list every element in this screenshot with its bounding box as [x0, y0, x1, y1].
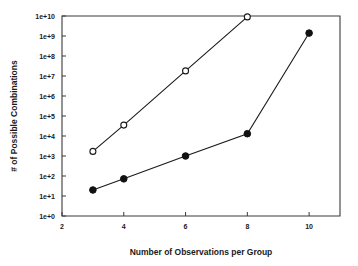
y-tick-label: 1e+7	[39, 73, 55, 80]
y-tick-label: 1e+6	[39, 93, 55, 100]
x-tick-label: 4	[122, 223, 126, 230]
x-axis-tick-marks	[62, 212, 309, 216]
series-line-open-circle-series	[93, 17, 247, 151]
x-tick-label: 6	[184, 223, 188, 230]
y-axis-title: # of Possible Combinations	[9, 60, 19, 172]
data-point-filled-circle-series	[90, 187, 97, 194]
x-tick-label: 2	[60, 223, 64, 230]
chart-figure: 1e+01e+11e+21e+31e+41e+51e+61e+71e+81e+9…	[0, 0, 358, 266]
data-point-filled-circle-series	[306, 30, 313, 37]
y-tick-label: 1e+2	[39, 173, 55, 180]
x-axis-title: Number of Observations per Group	[130, 247, 273, 257]
y-tick-label: 1e+5	[39, 113, 55, 120]
y-tick-label: 1e+1	[39, 193, 55, 200]
y-axis-tick-labels: 1e+01e+11e+21e+31e+41e+51e+61e+71e+81e+9…	[35, 13, 55, 220]
series-markers	[90, 14, 313, 193]
x-tick-label: 10	[305, 223, 313, 230]
chart-plot-area: 1e+01e+11e+21e+31e+41e+51e+61e+71e+81e+9…	[0, 0, 358, 266]
y-tick-label: 1e+10	[35, 13, 55, 20]
data-point-filled-circle-series	[182, 153, 189, 160]
y-tick-label: 1e+4	[39, 133, 55, 140]
x-axis-tick-labels: 246810	[60, 223, 313, 230]
y-tick-label: 1e+3	[39, 153, 55, 160]
data-point-open-circle-series	[121, 122, 127, 128]
x-tick-label: 8	[245, 223, 249, 230]
y-axis-tick-marks	[62, 16, 66, 216]
y-tick-label: 1e+9	[39, 33, 55, 40]
data-point-open-circle-series	[244, 14, 250, 20]
series-line-filled-circle-series	[93, 33, 309, 190]
data-point-filled-circle-series	[120, 176, 127, 183]
y-tick-label: 1e+8	[39, 53, 55, 60]
data-point-filled-circle-series	[244, 130, 251, 137]
data-point-open-circle-series	[90, 148, 96, 154]
y-tick-label: 1e+0	[39, 213, 55, 220]
data-point-open-circle-series	[183, 68, 189, 74]
series-lines	[93, 17, 309, 190]
